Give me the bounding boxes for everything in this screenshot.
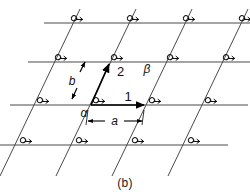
b-edge-tick-lower xyxy=(72,88,77,99)
node-angle-marker xyxy=(37,98,48,104)
vector-b-label: b xyxy=(69,74,76,88)
unit-vector-1-label: 1 xyxy=(124,89,131,104)
node-angle-marker xyxy=(183,16,194,22)
lattice-node-angle-markers xyxy=(20,16,250,144)
node-angle-marker xyxy=(76,138,87,144)
node-angle-marker xyxy=(132,138,143,144)
node-angle-marker xyxy=(188,138,199,144)
node-angle-marker xyxy=(205,98,216,104)
figure-caption: (b) xyxy=(0,176,250,190)
dimension-line-a: a xyxy=(86,110,144,128)
unit-vector-2-arrow xyxy=(91,64,109,105)
lattice-figure: 1 2 b α β a (b) xyxy=(0,0,250,194)
angle-beta-label: β xyxy=(143,62,151,76)
node-angle-marker xyxy=(93,98,104,104)
dimension-a-label: a xyxy=(111,114,118,128)
b-edge-tick-upper xyxy=(80,62,85,72)
node-angle-marker xyxy=(127,16,138,22)
node-angle-marker xyxy=(71,16,82,22)
node-angle-marker xyxy=(20,138,31,144)
node-angle-marker xyxy=(149,98,160,104)
unit-vector-2-label: 2 xyxy=(117,64,124,79)
lattice-diagram: 1 2 b α β a xyxy=(0,0,250,194)
